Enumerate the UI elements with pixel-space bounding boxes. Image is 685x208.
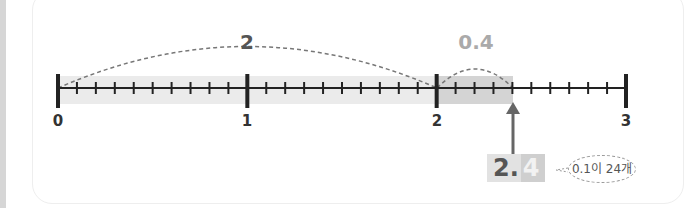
hint-bubble: 0.1이 24개 [568,155,636,183]
bubble-tail [556,168,568,172]
jump-label-2: 2 [240,30,254,54]
answer-integer: 2. [487,154,521,182]
tick-label-3: 3 [621,112,631,130]
answer-box: 2. 4 [487,154,545,182]
tick-label-0: 0 [53,112,63,130]
tick-label-2: 2 [432,112,442,130]
tick-label-1: 1 [242,112,252,130]
jump-label-0-4: 0.4 [458,30,493,54]
answer-decimal: 4 [521,154,545,182]
